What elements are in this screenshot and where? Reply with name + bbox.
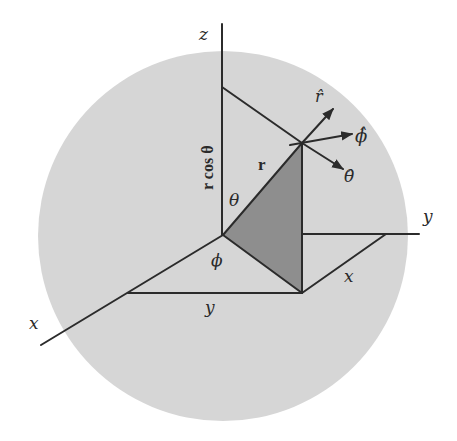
z-axis-label: z [198, 24, 209, 44]
r-cos-theta-label: r cos θ [199, 146, 216, 191]
phi-label: ϕ [211, 250, 223, 270]
x-axis-label: x [29, 313, 39, 333]
phi-hat-label: ϕ̂ [355, 125, 367, 146]
x-length-label: x [344, 266, 354, 286]
r-vector-label: r [258, 155, 266, 174]
r-hat-label: r̂ [315, 87, 324, 106]
y-length-label: y [204, 297, 215, 317]
theta-label: θ [229, 190, 239, 210]
spherical-coordinates-diagram: z y x r cos θ r θ ϕ y x r̂ ϕ̂ θ̂ [0, 0, 457, 441]
theta-hat-label: θ̂ [344, 166, 354, 186]
y-axis-label: y [422, 206, 433, 226]
